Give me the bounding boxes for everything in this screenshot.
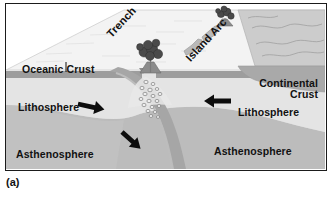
crust-band-backarc	[156, 71, 252, 78]
label-asthenosphere-left: Asthenosphere	[16, 149, 94, 160]
label-lithosphere-left: Lithosphere	[18, 102, 79, 113]
diagram-frame: Oceanic Crust Trench Island Arc Continen…	[5, 3, 327, 171]
label-continental-crust: Continental Crust	[259, 78, 318, 100]
label-asthenosphere-right: Asthenosphere	[214, 146, 292, 157]
figure-container: Oceanic Crust Trench Island Arc Continen…	[0, 0, 335, 199]
label-continental-crust-line2: Crust	[259, 89, 318, 100]
figure-caption: (a)	[6, 176, 19, 188]
label-oceanic-crust: Oceanic Crust	[22, 64, 95, 75]
label-lithosphere-right: Lithosphere	[238, 107, 299, 118]
